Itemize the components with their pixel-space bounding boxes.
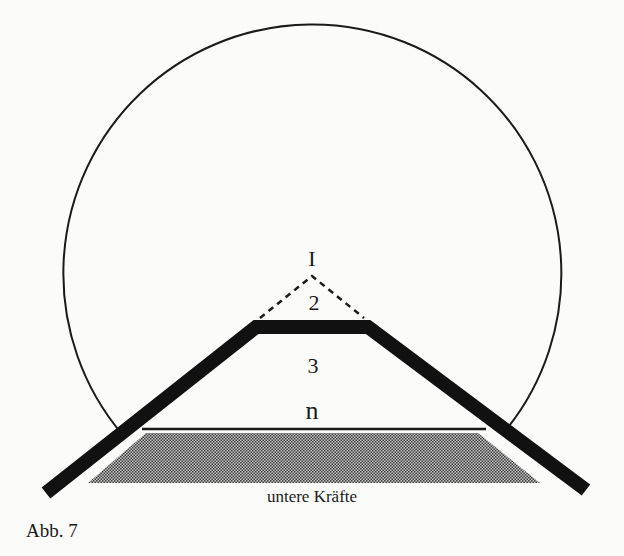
lower-forces-region xyxy=(88,433,540,483)
figure-caption: Abb. 7 xyxy=(26,520,78,542)
label-level-3: 3 xyxy=(308,355,319,377)
label-level-2: 2 xyxy=(309,292,320,314)
diagram-canvas xyxy=(0,0,624,556)
label-lower-forces: untere Kräfte xyxy=(267,488,357,505)
label-level-1: I xyxy=(308,248,315,270)
label-level-n: n xyxy=(306,398,319,424)
